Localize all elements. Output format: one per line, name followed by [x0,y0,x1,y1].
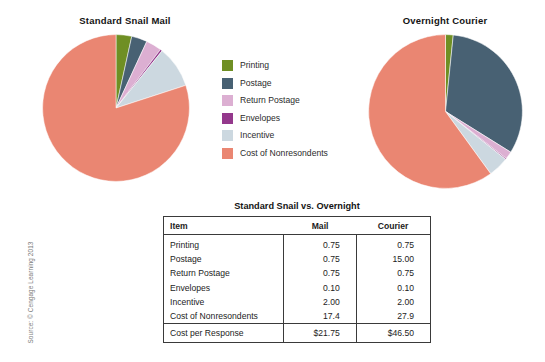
table-row: Cost of Nonresondents17.427.9 [164,309,431,324]
table-title: Standard Snail vs. Overnight [163,201,431,211]
cell-mail: 2.00 [284,295,356,309]
cell-total-courier: $46.50 [356,324,430,343]
cell-courier: 27.9 [356,309,430,324]
table-header-item: Item [164,217,284,235]
cell-mail: 17.4 [284,309,356,324]
pie-chart-title-right: Overnight Courier [360,15,530,26]
cell-mail: 0.75 [284,252,356,266]
table-row: Printing0.750.75 [164,235,431,253]
pie-chart-overnight-courier [368,34,523,189]
cell-courier: 0.10 [356,281,430,295]
legend-swatch-cost-of-nonresondents [222,148,233,159]
legend-item-printing: Printing [222,57,352,75]
cell-item: Cost of Nonresondents [164,309,284,324]
cell-item: Return Postage [164,266,284,280]
table-row: Envelopes0.100.10 [164,281,431,295]
cell-courier: 2.00 [356,295,430,309]
legend-swatch-incentive [222,130,233,141]
legend-label-printing: Printing [240,61,269,70]
cell-mail: 0.10 [284,281,356,295]
table-total-row: Cost per Response$21.75$46.50 [164,324,431,343]
table-row: Incentive2.002.00 [164,295,431,309]
legend-label-incentive: Incentive [240,131,274,140]
cell-mail: 0.75 [284,235,356,253]
cell-item: Printing [164,235,284,253]
pie-left-svg [42,34,190,182]
pie-right-svg [368,34,523,189]
legend-label-return-postage: Return Postage [240,96,300,105]
legend-swatch-envelopes [222,113,233,124]
figure-canvas: Standard Snail Mail Overnight Courier Pr… [0,0,545,362]
source-credit: Source: © Cengage Learning 2013 [27,234,34,344]
legend-swatch-return-postage [222,95,233,106]
table-header-row: Item Mail Courier [164,217,431,235]
legend-item-envelopes: Envelopes [222,110,352,128]
cell-courier: 0.75 [356,266,430,280]
pie-chart-standard-snail-mail [42,34,190,182]
cell-total-label: Cost per Response [164,324,284,343]
legend-item-postage: Postage [222,75,352,93]
legend-label-postage: Postage [240,79,272,88]
cell-mail: 0.75 [284,266,356,280]
table-row: Postage0.7515.00 [164,252,431,266]
legend-label-envelopes: Envelopes [240,114,280,123]
legend-item-return-postage: Return Postage [222,92,352,110]
cell-total-mail: $21.75 [284,324,356,343]
legend-label-cost-of-nonresondents: Cost of Nonresondents [240,149,328,158]
cell-courier: 0.75 [356,235,430,253]
table-header-mail: Mail [284,217,356,235]
table-header-courier: Courier [356,217,430,235]
cell-item: Postage [164,252,284,266]
cost-comparison-table: Item Mail Courier Printing0.750.75Postag… [163,216,431,343]
legend-swatch-postage [222,78,233,89]
legend-item-cost-of-nonresondents: Cost of Nonresondents [222,145,352,163]
legend-swatch-printing [222,60,233,71]
chart-legend: PrintingPostageReturn PostageEnvelopesIn… [222,57,352,162]
pie-chart-title-left: Standard Snail Mail [40,15,210,26]
cell-item: Envelopes [164,281,284,295]
table-row: Return Postage0.750.75 [164,266,431,280]
cell-item: Incentive [164,295,284,309]
legend-item-incentive: Incentive [222,127,352,145]
cell-courier: 15.00 [356,252,430,266]
